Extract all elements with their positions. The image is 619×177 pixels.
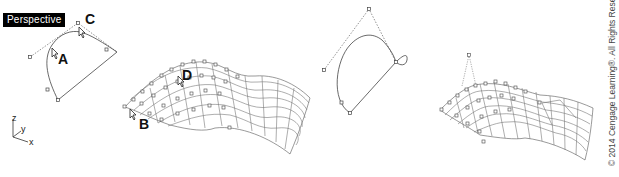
axis-label-y: y: [21, 124, 26, 134]
axis-label-x: x: [29, 137, 34, 147]
curve-panel-1: [29, 22, 118, 102]
axis-label-z: z: [12, 113, 17, 123]
callout-b: B: [139, 117, 149, 131]
curve-panel-2: [323, 8, 408, 115]
copyright-notice: © 2014 Cengage Learning®. All Rights Res…: [604, 6, 618, 176]
callout-c: C: [85, 12, 95, 26]
callout-a: A: [58, 52, 68, 66]
callout-d: D: [182, 68, 192, 82]
copyright-text: © 2014 Cengage Learning®. All Rights Res…: [607, 0, 617, 166]
surface-panel-2: [440, 54, 593, 161]
surface-panel-1: [123, 60, 310, 154]
